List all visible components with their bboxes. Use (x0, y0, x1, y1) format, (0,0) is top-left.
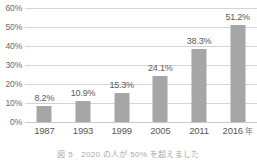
bar-chart: 0%10%20%30%40%50%60% 8.2%10.9%15.3%24.1%… (0, 0, 257, 148)
figure-caption: 図 5 2020 の人が 50% を超えました (0, 149, 257, 161)
y-axis-tick-label: 60% (6, 4, 22, 13)
bar[interactable] (153, 76, 168, 122)
bar-value-label: 38.3% (187, 37, 212, 46)
y-axis-tick-label: 50% (6, 23, 22, 32)
y-axis: 0%10%20%30%40%50%60% (0, 8, 24, 122)
plot-area: 8.2%10.9%15.3%24.1%38.3%51.2% (25, 8, 257, 122)
x-axis-tick-label: 2011 (189, 126, 209, 136)
figure-container: 0%10%20%30%40%50%60% 8.2%10.9%15.3%24.1%… (0, 0, 257, 161)
bar-value-label: 24.1% (148, 64, 173, 73)
y-axis-tick-label: 20% (6, 80, 22, 89)
bar-value-label: 51.2% (225, 13, 250, 22)
bar-group[interactable]: 8.2% (25, 8, 64, 122)
y-axis-tick-label: 10% (6, 99, 22, 108)
bar-value-label: 15.3% (109, 81, 134, 90)
x-axis-tick-label: 1999 (111, 126, 131, 136)
y-axis-tick-label: 40% (6, 42, 22, 51)
x-axis-tick-label: 1993 (73, 126, 93, 136)
bar-group[interactable]: 24.1% (141, 8, 180, 122)
bar-value-label: 10.9% (71, 89, 96, 98)
y-axis-tick-label: 0% (10, 118, 22, 127)
x-axis: 198719931999200520112016 年 (25, 126, 257, 142)
gridline (25, 122, 257, 123)
bar[interactable] (191, 49, 206, 122)
bar[interactable] (37, 106, 52, 122)
bar[interactable] (114, 93, 129, 122)
bar-group[interactable]: 10.9% (64, 8, 103, 122)
x-axis-tick-label: 2016 年 (223, 126, 253, 136)
bar-value-label: 8.2% (34, 94, 54, 103)
bar-group[interactable]: 51.2% (218, 8, 257, 122)
bar-group[interactable]: 38.3% (180, 8, 219, 122)
x-axis-tick-label: 1987 (34, 126, 54, 136)
bar-group[interactable]: 15.3% (102, 8, 141, 122)
x-axis-tick-label: 2005 (150, 126, 170, 136)
x-axis-unit-label: 年 (243, 127, 253, 136)
bar[interactable] (230, 25, 245, 122)
y-axis-tick-label: 30% (6, 61, 22, 70)
bar[interactable] (75, 101, 90, 122)
